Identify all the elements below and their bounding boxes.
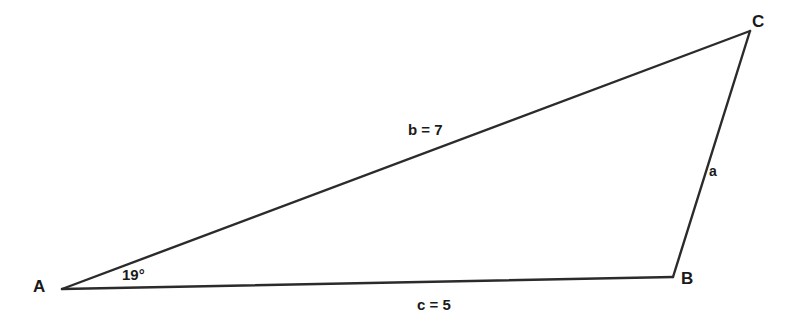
vertex-label-c: C <box>752 13 764 30</box>
side-label-c: c = 5 <box>417 297 451 312</box>
side-label-b: b = 7 <box>408 122 443 137</box>
vertex-label-b: B <box>681 270 693 287</box>
angle-label-a: 19° <box>122 267 145 282</box>
triangle-diagram-canvas: A B C a b = 7 c = 5 19° <box>0 0 797 330</box>
side-c-line-ab <box>62 277 673 289</box>
vertex-label-a: A <box>33 278 45 295</box>
triangle-figure <box>0 0 797 330</box>
side-b-line-ac <box>62 31 750 289</box>
side-label-a: a <box>709 164 717 178</box>
side-a-line-bc <box>673 31 750 277</box>
